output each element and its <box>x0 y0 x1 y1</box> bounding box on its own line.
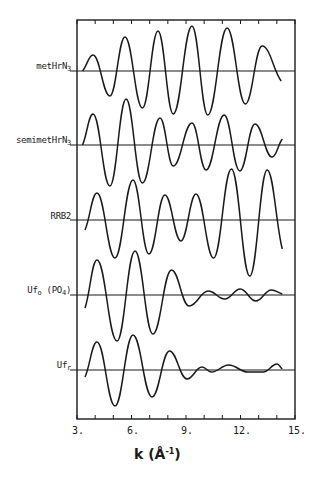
trace-curves <box>83 26 283 406</box>
xlabel-main: k (Å <box>134 446 165 462</box>
trace-semimethrn3 <box>83 99 283 186</box>
x-tick-label: 6. <box>127 425 139 436</box>
label-sub: 3 <box>67 139 71 147</box>
label-suffix: ) <box>66 285 71 295</box>
x-tick-label: 9. <box>181 425 193 436</box>
label-sub: r <box>67 364 71 372</box>
label-text: RRB2 <box>51 211 71 221</box>
label-text: Uf <box>57 360 67 370</box>
trace-label-ufo-po4: Ufo (PO4) <box>27 285 71 297</box>
label-sub: 3 <box>67 65 71 73</box>
trace-uf-o--po4- <box>85 251 282 341</box>
trace-rrb2 <box>85 169 282 276</box>
trace-label-ufr: Ufr <box>57 360 71 372</box>
trace-label-rrb2: RRB2 <box>51 211 71 221</box>
x-tick-label: 15. <box>288 425 306 436</box>
x-tick-label: 3. <box>72 425 84 436</box>
label-suffix: (PO <box>41 285 61 295</box>
xlabel-close: ) <box>174 446 180 462</box>
label-text: Uf <box>27 285 37 295</box>
trace-baselines <box>70 71 295 370</box>
x-axis-label: k (Å-1) <box>134 446 181 462</box>
xlabel-sup: -1 <box>165 447 174 456</box>
trace-label-semimethrn3: semimetHrN3 <box>16 135 71 147</box>
trace-label-methrn3: metHrN3 <box>36 61 71 73</box>
x-tick-label: 12. <box>233 425 251 436</box>
label-text: semimetHrN <box>16 135 67 145</box>
label-text: metHrN <box>36 61 67 71</box>
